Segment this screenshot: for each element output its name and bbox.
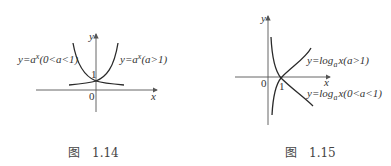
- origin-label: 0: [89, 90, 95, 102]
- label-log-increasing: y=logax(a>1): [306, 54, 369, 69]
- y-axis-label: y: [260, 12, 266, 24]
- x-axis-label: x: [150, 90, 156, 102]
- caption-figure-1-15: 图 1.15: [285, 146, 336, 160]
- intercept-label: 1: [279, 80, 285, 92]
- origin-label: 0: [261, 77, 267, 89]
- figure-1-15: y x 0 1 y=logax(a>1) y=logax(0<a<1) 图 1.…: [235, 12, 382, 160]
- y-axis-label: y: [88, 30, 94, 42]
- label-log-decreasing: y=logax(0<a<1): [306, 87, 382, 102]
- intercept-label: 1: [91, 68, 97, 80]
- label-exp-decay: y=ax(0<a<1): [17, 52, 78, 66]
- label-exp-growth: y=ax(a>1): [119, 52, 167, 66]
- curve-log-increasing: [272, 48, 311, 115]
- caption-figure-1-14: 图 1.14: [68, 146, 119, 160]
- figure-1-14: y x 0 1 y=ax(0<a<1) y=ax(a>1) 图 1.14: [17, 30, 167, 160]
- figures-canvas: y x 0 1 y=ax(0<a<1) y=ax(a>1) 图 1.14 y x…: [0, 0, 391, 166]
